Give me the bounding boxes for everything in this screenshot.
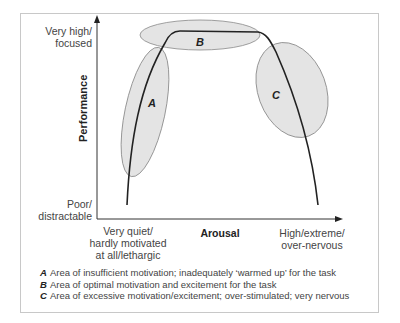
- y-bottom-label: Poor/ distractable: [20, 198, 92, 222]
- legend-item-a: AArea of insufficient motivation; inadeq…: [40, 267, 349, 279]
- y-axis-title: Performance: [77, 75, 89, 142]
- region-c-label: C: [272, 89, 281, 101]
- y-top-label: Very high/ focused: [20, 25, 92, 49]
- region-b-label: B: [196, 36, 204, 48]
- legend-item-b: BArea of optimal motivation and exciteme…: [40, 279, 349, 291]
- region-a-ellipse: [112, 43, 179, 180]
- region-a-label: A: [147, 97, 156, 109]
- y-axis-arrow-icon: [94, 15, 100, 23]
- legend: AArea of insufficient motivation; inadeq…: [40, 267, 349, 302]
- x-right-label: High/extreme/ over-nervous: [272, 227, 352, 251]
- x-left-label: Very quiet/ hardly motivated at all/leth…: [88, 225, 168, 261]
- x-axis-arrow-icon: [335, 216, 343, 222]
- legend-item-c: CArea of excessive motivation/excitement…: [40, 290, 349, 302]
- x-axis-title: Arousal: [195, 227, 245, 239]
